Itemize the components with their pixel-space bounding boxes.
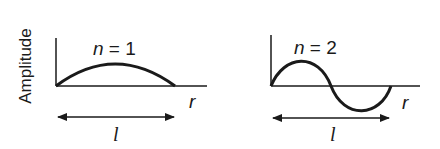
y-axis-label: Amplitude — [16, 26, 36, 106]
wave-mode-1 — [56, 64, 175, 86]
x-axis-label-r: r — [402, 92, 408, 114]
standing-wave-diagram — [0, 0, 440, 149]
n-value: = 1 — [104, 38, 136, 59]
length-label-l: l — [330, 123, 336, 146]
n-variable: n — [294, 37, 305, 58]
n-variable: n — [93, 38, 104, 59]
n-value: = 2 — [305, 37, 337, 58]
mode-label-n1: n = 1 — [93, 38, 136, 60]
length-label-l: l — [113, 123, 119, 146]
x-axis-label-r: r — [189, 91, 195, 113]
mode-label-n2: n = 2 — [294, 37, 337, 59]
